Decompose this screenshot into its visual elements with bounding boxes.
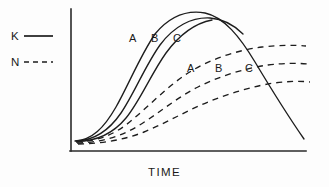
curve-n-a xyxy=(76,45,306,142)
curve-label-n-a: A xyxy=(187,63,195,74)
curve-label-k-b: B xyxy=(151,33,159,44)
figure-container: K N A B C A B C TIME xyxy=(0,0,329,187)
curve-k-b xyxy=(76,18,243,141)
legend-label-n: N xyxy=(11,57,19,69)
curve-label-k-c: C xyxy=(173,33,181,44)
curve-label-n-b: B xyxy=(215,63,223,74)
x-axis-title: TIME xyxy=(0,166,329,178)
plot-area xyxy=(0,0,329,187)
legend-label-k: K xyxy=(11,31,19,43)
curve-label-n-c: C xyxy=(245,63,253,74)
curve-k-c xyxy=(77,20,212,142)
curve-k-a xyxy=(75,12,304,141)
curve-label-k-a: A xyxy=(129,33,137,44)
